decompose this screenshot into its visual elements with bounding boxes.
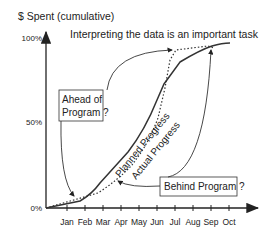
y-tick-100: 100% xyxy=(22,34,42,43)
month-jan: Jan xyxy=(60,217,74,227)
behind-text: Behind Program ? xyxy=(164,181,245,192)
month-jun: Jun xyxy=(150,217,164,227)
month-jul: Jul xyxy=(170,217,181,227)
ahead-arrow-up xyxy=(107,50,172,90)
y-tick-50: 50% xyxy=(26,118,42,127)
ahead-text-line1: Ahead of xyxy=(62,94,102,105)
month-mar: Mar xyxy=(96,217,111,227)
month-feb: Feb xyxy=(78,217,93,227)
y-axis-label: $ Spent (cumulative) xyxy=(18,10,114,22)
month-may: May xyxy=(131,217,148,227)
month-sep: Sep xyxy=(203,217,218,227)
month-apr: Apr xyxy=(114,217,127,227)
ahead-text-line2: Program ? xyxy=(62,107,109,118)
x-tick-labels: Jan Feb Mar Apr May Jun Jul Aug Sep Oct xyxy=(60,217,236,227)
month-aug: Aug xyxy=(185,217,200,227)
chart-title: Interpreting the data is an important ta… xyxy=(70,28,259,40)
ahead-arrow-down xyxy=(61,121,74,196)
y-tick-0: 0% xyxy=(30,204,42,213)
behind-arrow-left xyxy=(118,181,160,186)
progress-chart: $ Spent (cumulative) Interpreting the da… xyxy=(0,0,268,240)
month-oct: Oct xyxy=(222,217,236,227)
